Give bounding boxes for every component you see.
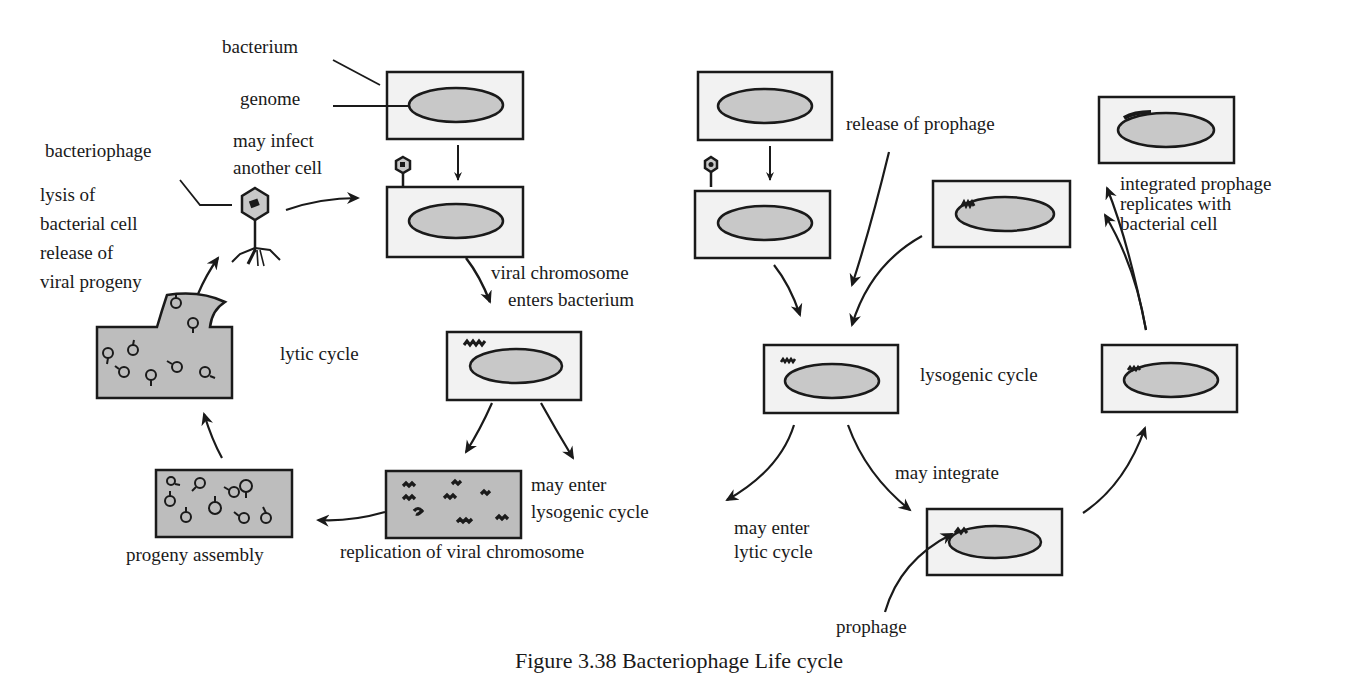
- lysogenic-cell-initial: [698, 72, 832, 140]
- bacteriophage-leader-line: [180, 180, 232, 205]
- label-integrated-1: integrated prophage: [1120, 173, 1271, 194]
- label-may-infect-2: another cell: [233, 157, 322, 178]
- label-progeny-assembly: progeny assembly: [126, 544, 264, 565]
- label-lysis-1: lysis of: [40, 184, 95, 205]
- attached-phage-icon: [396, 157, 410, 187]
- label-may-enter-lytic-2: lytic cycle: [734, 541, 813, 562]
- label-lysogenic-cycle: lysogenic cycle: [920, 364, 1038, 385]
- progeny-assembly-cell: [156, 470, 292, 537]
- arrow-to-lysis: [204, 414, 222, 458]
- label-may-integrate: may integrate: [895, 462, 999, 483]
- arrow-release-progeny: [198, 258, 218, 294]
- cell-with-viral-chromosome: [447, 332, 581, 400]
- label-integrated-2: replicates with: [1120, 193, 1231, 214]
- lysogenic-cell-infected: [695, 191, 830, 258]
- arrow-to-assembly: [318, 512, 385, 520]
- integrated-cell-middle: [933, 181, 1070, 247]
- arrow-to-replication: [466, 403, 492, 452]
- arrow-to-lysogenic: [541, 403, 573, 458]
- integrated-cell-top: [1099, 97, 1234, 163]
- label-lysis-4: viral progeny: [40, 271, 142, 292]
- replication-cell: [386, 471, 521, 538]
- figure-caption: Figure 3.38 Bacteriophage Life cycle: [515, 648, 843, 674]
- bacterium-cell-infected: [387, 187, 523, 257]
- label-integrated-3: bacterial cell: [1120, 213, 1218, 234]
- label-may-enter-lytic-1: may enter: [734, 517, 809, 538]
- label-lysis-3: release of: [40, 242, 113, 263]
- bacterium-leader-line: [333, 60, 380, 85]
- arrow-release-prophage: [852, 152, 889, 285]
- label-prophage: prophage: [836, 616, 907, 637]
- label-may-infect-1: may infect: [233, 130, 314, 151]
- label-viral-chromosome-2: enters bacterium: [508, 289, 634, 310]
- attached-phage-lysogenic-icon: [705, 157, 717, 187]
- bacteriophage-icon: [232, 188, 280, 266]
- label-lytic-cycle: lytic cycle: [280, 343, 359, 364]
- label-genome: genome: [240, 88, 300, 109]
- arrow-may-enter-lytic: [727, 425, 794, 500]
- label-bacterium: bacterium: [222, 36, 298, 57]
- arrow-may-infect: [286, 198, 358, 210]
- label-release-prophage: release of prophage: [846, 113, 995, 134]
- arrow-to-integrated: [1083, 428, 1145, 513]
- label-viral-chromosome-1: viral chromosome: [491, 262, 629, 283]
- label-lysis-2: bacterial cell: [40, 213, 138, 234]
- label-replication: replication of viral chromosome: [340, 541, 584, 562]
- arrow-to-lysogenic-center: [774, 265, 800, 315]
- label-bacteriophage: bacteriophage: [45, 140, 152, 161]
- arrow-chromosome-enters: [466, 258, 490, 302]
- lysed-cell: [97, 293, 232, 398]
- label-may-enter-lysogenic-2: lysogenic cycle: [531, 501, 649, 522]
- label-may-enter-lysogenic-1: may enter: [531, 474, 606, 495]
- integrating-cell: [927, 509, 1062, 575]
- lysogenic-cell-center: [764, 345, 898, 413]
- integrated-cell-right: [1102, 345, 1237, 412]
